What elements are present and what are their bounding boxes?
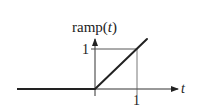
ramp-slope-segment: [95, 39, 147, 89]
x-axis-label: t: [181, 81, 186, 96]
plot-title: ramp(t): [72, 19, 117, 36]
y-tick-label-1: 1: [82, 42, 89, 57]
x-tick-label-1: 1: [133, 93, 140, 108]
ramp-function-plot: ramp(t) t 1 1: [0, 0, 197, 112]
